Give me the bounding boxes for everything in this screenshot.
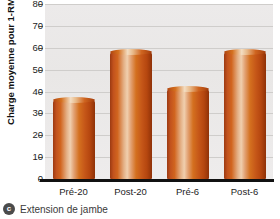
y-tick-mark: [38, 48, 43, 49]
y-tick-mark: [38, 92, 43, 93]
figure-panel: Charge moyenne pour 1-RM (kg) 0102030405…: [0, 0, 279, 219]
y-tick-mark: [38, 135, 43, 136]
bar-top-ellipse: [224, 49, 266, 55]
y-tick-mark: [38, 113, 43, 114]
bar-series: [45, 4, 273, 179]
y-tick-mark: [38, 157, 43, 158]
bar-1: [53, 100, 95, 179]
caption-text: Extension de jambe: [20, 204, 108, 215]
bar-4: [224, 52, 266, 179]
bar-top-ellipse: [167, 86, 209, 92]
y-axis-title: Charge moyenne pour 1-RM (kg): [5, 0, 16, 137]
x-axis-baseline: [40, 179, 274, 182]
bar-2: [110, 52, 152, 179]
bar-top-ellipse: [53, 97, 95, 103]
caption-badge-icon: c: [3, 203, 15, 215]
y-tick-mark: [38, 4, 43, 5]
bar-top-ellipse: [110, 49, 152, 55]
x-tick-label: Post-6: [205, 186, 280, 197]
bar-3: [167, 89, 209, 179]
y-tick-mark: [38, 26, 43, 27]
y-axis-title-container: Charge moyenne pour 1-RM (kg): [0, 0, 14, 185]
figure-caption: c Extension de jambe: [3, 203, 108, 215]
y-tick-mark: [38, 70, 43, 71]
